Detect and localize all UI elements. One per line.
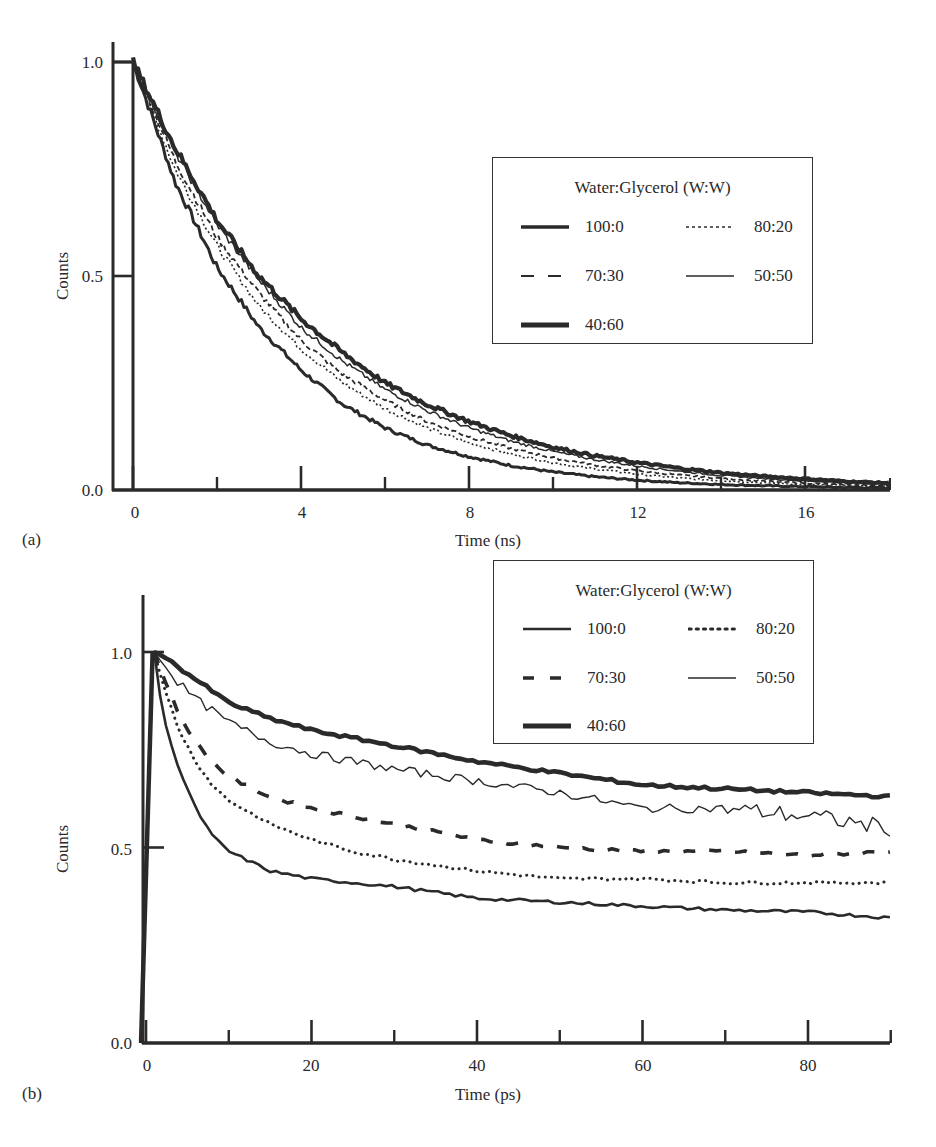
chart-a-xtick-12: 12 [630, 503, 647, 522]
chart-b-legend-title: Water:Glycerol (W:W) [494, 581, 813, 601]
chart-a-legend-item-50-50: 50:50 [686, 266, 793, 286]
chart-a-legend-item-100-0: 100:0 [521, 217, 624, 237]
chart-b-curves [141, 652, 890, 1043]
chart-b-ticks [143, 652, 891, 1043]
series-line-50-50 [154, 652, 890, 836]
series-line-100-0 [154, 652, 890, 919]
chart-a-xtick-4: 4 [298, 503, 307, 522]
chart-b-legend: Water:Glycerol (W:W) 100:0 80:20 70:30 5… [493, 560, 814, 744]
figure-panel-a: 1.0 0.5 0.0 0 4 8 12 16 Time (ns) Counts… [0, 0, 936, 560]
chart-b-legend-label: 50:50 [756, 668, 795, 688]
chart-b-ylabel: Counts [53, 825, 72, 873]
series-line-70-30 [154, 652, 890, 856]
chart-a-xtick-16: 16 [798, 503, 815, 522]
dotted-line-icon [688, 623, 736, 635]
chart-a-ytick-05: 0.5 [82, 267, 103, 286]
chart-b-ytick-1: 1.0 [111, 644, 132, 663]
chart-a-legend-label: 50:50 [754, 266, 793, 286]
chart-a-legend-item-80-20: 80:20 [686, 217, 793, 237]
chart-a-legend-item-70-30: 70:30 [521, 266, 624, 286]
chart-a-ytick-0: 0.0 [82, 481, 103, 500]
series-line-80-20 [154, 652, 890, 884]
chart-a-ylabel: Counts [53, 252, 72, 300]
chart-b-legend-item-50-50: 50:50 [688, 668, 795, 688]
chart-b-legend-item-100-0: 100:0 [523, 619, 626, 639]
chart-a-xtick-0: 0 [131, 503, 140, 522]
chart-b-xtick-20: 20 [303, 1056, 320, 1075]
series-line-40-60 [154, 652, 890, 797]
chart-b-legend-item-40-60: 40:60 [523, 716, 626, 736]
thick-line-icon [523, 720, 571, 732]
chart-a-legend-title: Water:Glycerol (W:W) [493, 178, 812, 198]
chart-b-ytick-05: 0.5 [111, 840, 132, 859]
chart-b-xtick-60: 60 [635, 1056, 652, 1075]
chart-b-legend-item-70-30: 70:30 [523, 668, 626, 688]
chart-a-legend-item-40-60: 40:60 [521, 315, 624, 335]
chart-b-legend-label: 70:30 [587, 668, 626, 688]
chart-b-xtick-40: 40 [469, 1056, 486, 1075]
solid-line-icon [523, 623, 571, 635]
chart-a-xtick-8: 8 [466, 503, 475, 522]
chart-a-legend-label: 70:30 [585, 266, 624, 286]
chart-b-xtick-80: 80 [800, 1056, 817, 1075]
chart-b-legend-label: 80:20 [756, 619, 795, 639]
chart-a-panel-label: (a) [22, 530, 41, 550]
chart-b-xtick-0: 0 [143, 1056, 152, 1075]
thick-line-icon [521, 319, 569, 331]
chart-b-panel-label: (b) [22, 1084, 42, 1104]
chart-a-legend-label: 80:20 [754, 217, 793, 237]
chart-a-legend: Water:Glycerol (W:W) 100:0 80:20 70:30 5… [492, 157, 813, 344]
rise-line [141, 652, 153, 1043]
chart-a-legend-label: 40:60 [585, 315, 624, 335]
chart-a-legend-label: 100:0 [585, 217, 624, 237]
thin-line-icon [688, 672, 736, 684]
chart-b-xlabel: Time (ps) [455, 1085, 521, 1104]
dashed-line-icon [523, 672, 571, 684]
solid-line-icon [521, 221, 569, 233]
chart-b-legend-label: 100:0 [587, 619, 626, 639]
dotted-line-icon [686, 221, 734, 233]
chart-b-legend-item-80-20: 80:20 [688, 619, 795, 639]
chart-a-ytick-1: 1.0 [82, 53, 103, 72]
dashed-line-icon [521, 270, 569, 282]
chart-b-ytick-0: 0.0 [111, 1034, 132, 1053]
chart-a-xlabel: Time (ns) [455, 531, 521, 550]
thin-line-icon [686, 270, 734, 282]
chart-b-legend-label: 40:60 [587, 716, 626, 736]
